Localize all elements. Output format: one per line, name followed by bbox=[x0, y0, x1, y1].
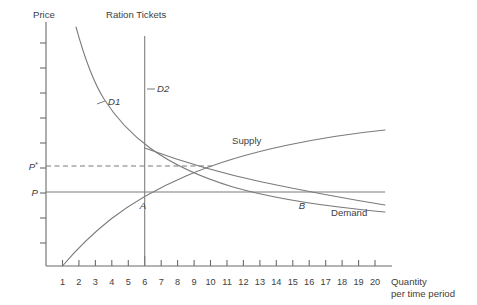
supply-label: Supply bbox=[232, 135, 262, 146]
d1-leader-line bbox=[97, 101, 105, 104]
x-tick-label: 11 bbox=[222, 277, 232, 287]
x-tick-label: 18 bbox=[337, 277, 347, 287]
y-axis-ticks bbox=[40, 43, 46, 243]
x-tick-label: 16 bbox=[304, 277, 314, 287]
x-tick-label: 14 bbox=[271, 277, 281, 287]
x-tick-label: 17 bbox=[321, 277, 331, 287]
ration-tickets-label: Ration Tickets bbox=[106, 9, 166, 20]
equilibrium-price-label: P* bbox=[29, 161, 38, 173]
x-tick-label: 2 bbox=[76, 277, 81, 287]
point-a-label: A bbox=[139, 200, 146, 211]
x-tick-label: 10 bbox=[205, 277, 215, 287]
x-tick-label: 3 bbox=[93, 277, 98, 287]
x-tick-label: 4 bbox=[109, 277, 114, 287]
plot-canvas: Price Ration Tickets D1 D2 Supply Demand… bbox=[0, 0, 477, 305]
x-tick-label: 13 bbox=[255, 277, 265, 287]
equilibrium-price-asterisk: * bbox=[35, 161, 38, 168]
x-tick-label: 5 bbox=[126, 277, 131, 287]
d2-label: D2 bbox=[157, 83, 170, 94]
x-tick-label: 8 bbox=[175, 277, 180, 287]
x-tick-label: 12 bbox=[238, 277, 248, 287]
point-b-label: B bbox=[299, 200, 306, 211]
supply-demand-diagram: Price Ration Tickets D1 D2 Supply Demand… bbox=[0, 0, 477, 305]
x-tick-label: 9 bbox=[192, 277, 197, 287]
demand-label: Demand bbox=[331, 207, 367, 218]
supply-curve bbox=[63, 130, 386, 266]
demand-curve-d1 bbox=[76, 27, 385, 212]
x-tick-label: 7 bbox=[159, 277, 164, 287]
x-tick-label: 6 bbox=[142, 277, 147, 287]
x-axis-title-line2: per time period bbox=[391, 288, 455, 299]
x-tick-label: 1 bbox=[60, 277, 65, 287]
x-tick-label: 19 bbox=[353, 277, 363, 287]
x-axis-ticks bbox=[63, 256, 376, 266]
demand-curve bbox=[145, 148, 385, 205]
d1-label: D1 bbox=[108, 96, 120, 107]
x-tick-label: 20 bbox=[370, 277, 380, 287]
x-tick-label: 15 bbox=[288, 277, 298, 287]
y-axis-title: Price bbox=[33, 9, 55, 20]
controlled-price-label: P bbox=[32, 187, 39, 198]
x-axis-tick-labels: 1 2 3 4 5 6 7 8 9 10 11 12 13 14 15 16 1… bbox=[60, 277, 380, 287]
x-axis-title-line1: Quantity bbox=[391, 276, 427, 287]
